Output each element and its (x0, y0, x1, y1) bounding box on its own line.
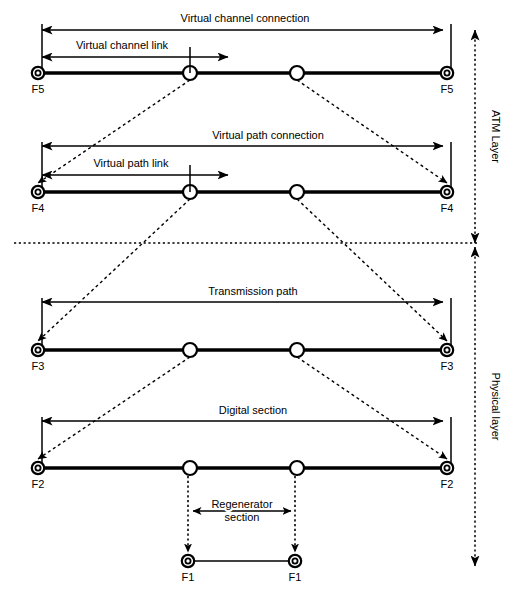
row-f3-connection-label: Transmission path (208, 285, 297, 297)
row-f5: F5F5Virtual channel connectionVirtual ch… (32, 12, 454, 95)
row-f5-node-2 (290, 66, 304, 80)
layer-scope-markers: ATM LayerPhysical layer (475, 30, 502, 566)
row-f2-connection-label: Digital section (219, 404, 287, 416)
mux-link-f4-to-f3-right (297, 199, 447, 341)
row-f2-endpoint-left-inner (35, 465, 40, 470)
row-f2-label-right: F2 (441, 478, 454, 490)
row-f4-label-right: F4 (441, 202, 454, 214)
regen-endpoint-left-inner (185, 558, 190, 563)
row-f5-endpoint-left-inner (35, 70, 40, 75)
regenerator-row: F1F1Regeneratorsection (182, 476, 302, 583)
regen-endpoint-right-inner (292, 558, 297, 563)
row-f3-node-2 (290, 343, 304, 357)
row-f4-link-label: Virtual path link (93, 157, 169, 169)
regen-label-left: F1 (182, 571, 195, 583)
row-f3-label-left: F3 (32, 360, 45, 372)
regen-label-right: F1 (289, 571, 302, 583)
row-f5-link-label: Virtual channel link (76, 39, 169, 51)
row-f4-label-left: F4 (32, 202, 45, 214)
row-f5-label-left: F5 (32, 83, 45, 95)
row-f4-connection-label: Virtual path connection (212, 129, 324, 141)
mux-link-f4-to-f3-left (38, 199, 190, 341)
row-f3-endpoint-right-inner (444, 347, 449, 352)
atm-layer-hierarchy-diagram: F5F5Virtual channel connectionVirtual ch… (0, 0, 509, 599)
row-f2-endpoint-right-inner (444, 465, 449, 470)
row-f3-endpoint-left-inner (35, 347, 40, 352)
regen-section-label-line1: Regenerator (211, 498, 272, 510)
row-f5-label-right: F5 (441, 83, 454, 95)
row-f3-node-1 (183, 343, 197, 357)
layer-label-atm-layer: ATM Layer (490, 110, 502, 163)
row-f4: F4F4Virtual path connectionVirtual path … (32, 129, 454, 214)
protocol-rows: F5F5Virtual channel connectionVirtual ch… (32, 12, 454, 490)
regen-section-label-line2: section (225, 511, 260, 523)
row-f4-endpoint-right-inner (444, 189, 449, 194)
row-f3: F3F3Transmission path (32, 285, 454, 372)
row-f2: F2F2Digital section (32, 404, 454, 490)
row-f5-connection-label: Virtual channel connection (181, 12, 310, 24)
row-f2-node-1 (183, 461, 197, 475)
mux-link-f3-to-f2-left (38, 357, 190, 459)
row-f2-label-left: F2 (32, 478, 45, 490)
row-f4-endpoint-left-inner (35, 189, 40, 194)
layer-label-physical-layer: Physical layer (490, 373, 502, 441)
mux-link-f3-to-f2-right (297, 357, 447, 459)
row-f3-label-right: F3 (441, 360, 454, 372)
row-f5-endpoint-right-inner (444, 70, 449, 75)
row-f2-node-2 (290, 461, 304, 475)
row-f4-node-2 (290, 185, 304, 199)
